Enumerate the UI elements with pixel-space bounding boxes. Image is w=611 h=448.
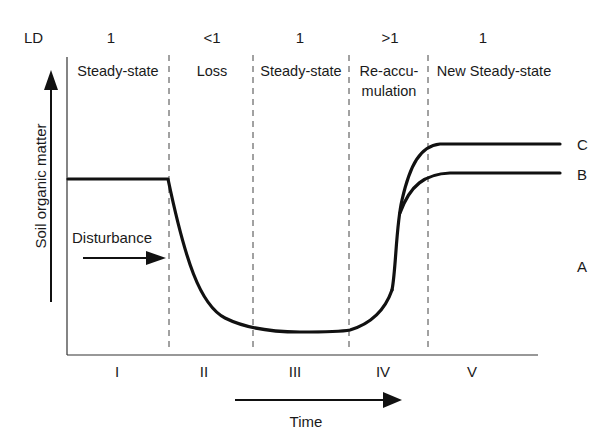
- phase-name-4-line-2: mulation: [362, 83, 417, 99]
- y-axis-label: Soil organic matter: [32, 123, 49, 248]
- phase-numeral-4: IV: [376, 363, 390, 380]
- disturbance-arrowhead-icon: [146, 251, 166, 265]
- phase-numeral-5: V: [467, 363, 477, 380]
- y-axis-arrowhead-icon: [44, 70, 58, 90]
- phase-name-2: Loss: [197, 63, 228, 79]
- curve-label-a: A: [577, 258, 587, 275]
- x-axis-label: Time: [290, 413, 323, 430]
- curve-c: [392, 144, 560, 290]
- ld-value-phase-5: 1: [479, 29, 487, 46]
- time-arrowhead-icon: [383, 392, 402, 408]
- phase-numeral-2: II: [200, 363, 208, 380]
- soil-organic-matter-diagram: LD 1 <1 1 >1 1 Steady-state Loss Steady-…: [0, 0, 611, 448]
- phase-name-4-line-1: Re-accu-: [360, 63, 419, 79]
- ld-value-phase-3: 1: [296, 29, 304, 46]
- phase-numeral-1: I: [115, 363, 119, 380]
- ld-value-phase-1: 1: [107, 29, 115, 46]
- phase-numeral-3: III: [289, 363, 302, 380]
- ld-value-phase-2: <1: [203, 29, 220, 46]
- curve-common: [68, 179, 392, 332]
- phase-name-5: New Steady-state: [437, 63, 551, 79]
- phase-name-1: Steady-state: [77, 63, 158, 79]
- phase-dividers: [169, 55, 428, 350]
- phase-name-3: Steady-state: [260, 63, 341, 79]
- curve-b: [400, 173, 560, 213]
- ld-label: LD: [24, 29, 43, 46]
- ld-value-phase-4: >1: [381, 29, 398, 46]
- curve-label-b: B: [577, 166, 587, 183]
- disturbance-label: Disturbance: [72, 229, 152, 246]
- curve-label-c: C: [577, 136, 588, 153]
